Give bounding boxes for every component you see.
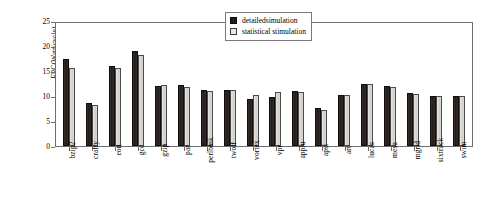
x-tick-label: vortex xyxy=(253,140,261,160)
x-tick-label: mgrid xyxy=(414,141,422,159)
bar-group xyxy=(310,23,333,146)
bar-statistical-vpr xyxy=(275,92,281,146)
bar-statistical-vortex xyxy=(253,95,259,146)
bar-group xyxy=(401,23,424,146)
x-tick-label: par xyxy=(184,145,192,155)
legend-swatch-light-icon xyxy=(230,28,237,35)
chart-container: EPC(Watt/cycle) 0510152025 bzip2craftyeo… xyxy=(0,0,492,204)
y-tick-label: 5 xyxy=(28,118,50,126)
bar-group xyxy=(58,23,81,146)
legend-label-statistical: statistical stimulation xyxy=(242,27,306,36)
x-label-cell: sixtrack xyxy=(425,150,448,204)
x-tick-label: swim xyxy=(460,142,468,159)
bar-group xyxy=(81,23,104,146)
x-tick-label: gcc xyxy=(138,145,146,156)
x-label-cell: par xyxy=(172,150,195,204)
x-axis-labels: bzip2craftyeongccgzipparperlbmktwolfvort… xyxy=(55,150,473,204)
x-label-cell: twolf xyxy=(218,150,241,204)
bar-group xyxy=(172,23,195,146)
x-label-cell: apsi xyxy=(310,150,333,204)
legend-label-detailed: detailedsimulation xyxy=(242,16,297,25)
x-tick-label: eon xyxy=(115,144,123,155)
x-label-cell: gcc xyxy=(126,150,149,204)
x-tick-label: bzip2 xyxy=(69,141,77,158)
bar-statistical-apsi xyxy=(321,110,327,146)
x-label-cell: applu xyxy=(287,150,310,204)
x-tick-label: sixtrack xyxy=(437,138,445,163)
x-tick-label: crafty xyxy=(92,141,100,159)
y-tick-label: 0 xyxy=(28,143,50,151)
x-tick-label: lucas xyxy=(368,142,376,158)
x-label-cell: art xyxy=(333,150,356,204)
bar-group xyxy=(287,23,310,146)
legend-item-statistical: statistical stimulation xyxy=(230,26,306,37)
bar-group xyxy=(356,23,379,146)
x-label-cell: mesa xyxy=(379,150,402,204)
legend-swatch-dark-icon xyxy=(230,17,237,24)
y-tick-label: 15 xyxy=(28,68,50,76)
x-label-cell: eon xyxy=(103,150,126,204)
bar-group xyxy=(127,23,150,146)
x-tick-label: mesa xyxy=(391,142,399,158)
bar-statistical-par xyxy=(184,87,190,147)
bar-statistical-mesa xyxy=(390,87,396,146)
x-tick-label: twolf xyxy=(230,142,238,158)
x-label-cell: perlbmk xyxy=(195,150,218,204)
x-label-cell: gzip xyxy=(149,150,172,204)
bar-group xyxy=(447,23,470,146)
x-label-cell: vpr xyxy=(264,150,287,204)
bar-statistical-crafty xyxy=(92,105,98,147)
bar-statistical-mgrid xyxy=(413,94,419,147)
bar-statistical-swim xyxy=(459,96,465,146)
y-tick-mark xyxy=(51,147,55,148)
x-label-cell: swim xyxy=(448,150,471,204)
x-tick-label: apsi xyxy=(322,144,330,156)
bar-group xyxy=(150,23,173,146)
x-label-cell: vortex xyxy=(241,150,264,204)
bars-area xyxy=(56,23,472,146)
bar-group xyxy=(264,23,287,146)
x-tick-label: gzip xyxy=(161,143,169,156)
bar-group xyxy=(218,23,241,146)
x-label-cell: bzip2 xyxy=(57,150,80,204)
x-label-cell: lucas xyxy=(356,150,379,204)
y-tick-label: 20 xyxy=(28,43,50,51)
x-tick-label: art xyxy=(345,146,353,154)
x-label-cell: crafty xyxy=(80,150,103,204)
bar-group xyxy=(104,23,127,146)
y-tick-label: 25 xyxy=(28,18,50,26)
bar-statistical-gcc xyxy=(138,55,144,147)
bar-group xyxy=(241,23,264,146)
chart-legend: detailedsimulation statistical stimulati… xyxy=(225,12,312,41)
x-label-cell: mgrid xyxy=(402,150,425,204)
x-tick-label: vpr xyxy=(276,145,284,155)
bar-group xyxy=(424,23,447,146)
x-tick-label: applu xyxy=(299,141,307,158)
bar-statistical-bzip2 xyxy=(69,68,75,146)
bar-statistical-twolf xyxy=(230,90,236,146)
x-tick-label: perlbmk xyxy=(207,137,215,163)
bar-group xyxy=(378,23,401,146)
y-tick-label: 10 xyxy=(28,93,50,101)
legend-item-detailed: detailedsimulation xyxy=(230,15,306,26)
bar-statistical-art xyxy=(344,95,350,147)
bar-group xyxy=(333,23,356,146)
bar-statistical-applu xyxy=(298,92,304,146)
bar-statistical-eon xyxy=(115,68,121,147)
bar-statistical-gzip xyxy=(161,85,167,146)
bar-statistical-lucas xyxy=(367,84,373,146)
bar-group xyxy=(195,23,218,146)
